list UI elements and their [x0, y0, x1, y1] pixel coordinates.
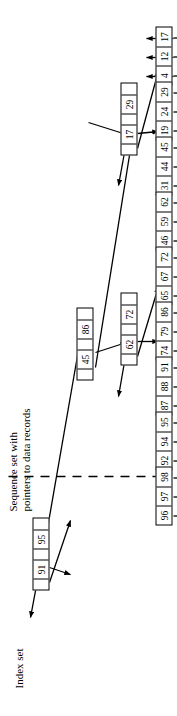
record-pointer-layer	[0, 0, 177, 716]
btree-diagram: Index set Sequence set with pointers to …	[0, 0, 177, 716]
figure-page: Index set Sequence set with pointers to …	[0, 0, 177, 716]
